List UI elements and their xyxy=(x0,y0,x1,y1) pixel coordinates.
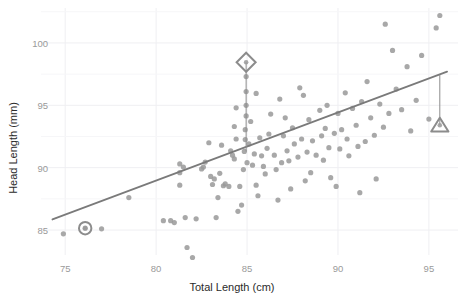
data-point xyxy=(201,164,206,169)
data-point xyxy=(363,139,368,144)
data-point xyxy=(239,203,244,208)
y-tick-label: 100 xyxy=(20,37,48,48)
data-point xyxy=(346,153,351,158)
data-point xyxy=(61,231,66,236)
y-tick-label: 85 xyxy=(20,225,48,236)
x-axis-title: Total Length (cm) xyxy=(0,281,464,293)
data-point xyxy=(99,226,104,231)
data-point xyxy=(261,164,266,169)
data-point xyxy=(354,123,359,128)
data-point xyxy=(235,209,240,214)
data-point xyxy=(210,182,215,187)
data-point xyxy=(272,153,277,158)
highlight-diamond-marker-point xyxy=(244,60,249,65)
data-point xyxy=(377,101,382,106)
data-point xyxy=(266,131,271,136)
data-point xyxy=(319,133,324,138)
data-point xyxy=(234,136,239,141)
data-point xyxy=(303,178,308,183)
y-axis-title: Head Length (mm) xyxy=(7,73,19,223)
data-point xyxy=(268,111,273,116)
data-point xyxy=(257,135,262,140)
data-point xyxy=(214,215,219,220)
y-tick-label: 95 xyxy=(20,100,48,111)
data-point xyxy=(308,170,313,175)
data-point xyxy=(310,138,315,143)
data-point xyxy=(317,108,322,113)
data-point xyxy=(279,160,284,165)
data-point xyxy=(190,255,195,260)
data-point xyxy=(434,25,439,30)
data-point xyxy=(263,171,268,176)
scatter-chart: Total Length (cm) Head Length (mm) 75808… xyxy=(0,0,464,308)
data-point xyxy=(219,143,224,148)
data-point xyxy=(172,220,177,225)
data-point xyxy=(323,126,328,131)
data-point xyxy=(286,158,291,163)
data-point xyxy=(292,141,297,146)
highlight-triangle-marker-point xyxy=(438,123,443,128)
data-point xyxy=(404,64,409,69)
data-point xyxy=(244,160,249,165)
data-point xyxy=(248,119,253,124)
data-point xyxy=(274,167,279,172)
data-point xyxy=(332,131,337,136)
data-point xyxy=(126,195,131,200)
data-point xyxy=(301,93,306,98)
data-point xyxy=(414,98,419,103)
data-point xyxy=(194,216,199,221)
data-point xyxy=(288,186,293,191)
data-point xyxy=(334,184,339,189)
data-point xyxy=(408,128,413,133)
data-point xyxy=(264,146,269,151)
data-point xyxy=(275,198,280,203)
data-point xyxy=(283,115,288,120)
y-tick-label: 90 xyxy=(20,162,48,173)
data-point xyxy=(306,117,311,122)
data-point xyxy=(374,176,379,181)
data-point xyxy=(183,215,188,220)
x-tick-label: 85 xyxy=(242,263,253,274)
data-point xyxy=(215,195,220,200)
data-point xyxy=(234,105,239,110)
data-point xyxy=(383,22,388,27)
data-point xyxy=(277,96,282,101)
data-point xyxy=(355,144,360,149)
data-point xyxy=(343,90,348,95)
data-point xyxy=(381,125,386,130)
data-point xyxy=(206,140,211,145)
data-point xyxy=(250,163,255,168)
regression-line xyxy=(52,72,447,220)
data-point xyxy=(232,124,237,129)
data-point xyxy=(299,136,304,141)
data-point xyxy=(243,137,248,142)
data-point xyxy=(321,158,326,163)
data-point xyxy=(212,176,217,181)
data-point xyxy=(328,175,333,180)
x-tick-label: 80 xyxy=(151,263,162,274)
data-point xyxy=(419,53,424,58)
data-point xyxy=(386,111,391,116)
data-point xyxy=(259,153,264,158)
data-point xyxy=(297,85,302,90)
data-point xyxy=(304,149,309,154)
data-point xyxy=(324,103,329,108)
x-tick-label: 75 xyxy=(60,263,71,274)
data-point xyxy=(437,13,442,18)
data-point xyxy=(314,153,319,158)
data-point xyxy=(252,151,257,156)
data-point xyxy=(337,146,342,151)
data-point xyxy=(254,183,259,188)
data-point xyxy=(177,183,182,188)
highlight-markers xyxy=(79,53,448,235)
data-point xyxy=(255,193,260,198)
data-point xyxy=(364,79,369,84)
x-tick-label: 90 xyxy=(333,263,344,274)
grid-lines xyxy=(41,8,458,255)
data-point xyxy=(284,148,289,153)
data-point xyxy=(184,245,189,250)
data-point xyxy=(399,107,404,112)
data-point xyxy=(237,184,242,189)
x-tick-label: 95 xyxy=(424,263,435,274)
data-point xyxy=(243,127,248,132)
